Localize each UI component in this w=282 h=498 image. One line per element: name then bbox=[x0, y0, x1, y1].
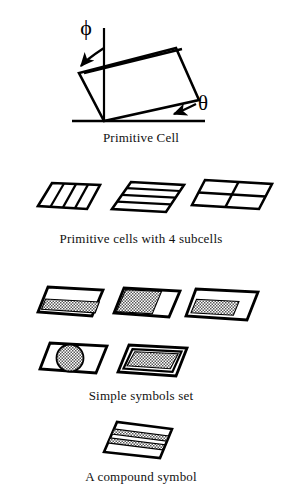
cell-horizontal-strips bbox=[112, 182, 184, 212]
symbol-circle-shape bbox=[57, 345, 84, 372]
figure-root: ϕ θ Primitive Cell bbox=[0, 0, 282, 498]
compound-symbol-shape bbox=[104, 422, 172, 458]
caption-compound-symbol: A compound symbol bbox=[0, 469, 282, 484]
caption-primitive-cell: Primitive Cell bbox=[0, 130, 282, 145]
symbol-inset-filled bbox=[186, 289, 258, 320]
simple-symbols-art bbox=[0, 272, 282, 384]
symbol-left-filled bbox=[114, 288, 180, 317]
symbol-circle-filled bbox=[40, 343, 107, 373]
symbol-bottom-band-filled bbox=[38, 287, 103, 316]
cell-vertical-strips bbox=[38, 183, 100, 209]
subcells-art bbox=[0, 172, 282, 228]
caption-simple-symbols: Simple symbols set bbox=[0, 388, 282, 403]
panel-simple-symbols: Simple symbols set bbox=[0, 272, 282, 403]
subcells-svg bbox=[0, 172, 282, 228]
panel-primitive-cell: ϕ θ Primitive Cell bbox=[0, 0, 282, 145]
simple-symbols-svg bbox=[0, 272, 282, 384]
caption-subcells: Primitive cells with 4 subcells bbox=[0, 231, 282, 246]
symbol-nested-filled bbox=[118, 345, 187, 376]
compound-symbol-svg bbox=[0, 412, 282, 464]
compound-symbol-art bbox=[0, 412, 282, 464]
primitive-cell-art: ϕ θ bbox=[0, 0, 282, 128]
panel-subcells: Primitive cells with 4 subcells bbox=[0, 172, 282, 246]
cell-two-by-two-grid bbox=[192, 180, 272, 209]
primitive-cell-svg: ϕ θ bbox=[0, 0, 282, 128]
panel-compound-symbol: A compound symbol bbox=[0, 412, 282, 484]
phi-angle-arrow bbox=[81, 48, 104, 66]
theta-label: θ bbox=[198, 91, 208, 115]
phi-label: ϕ bbox=[80, 15, 92, 40]
